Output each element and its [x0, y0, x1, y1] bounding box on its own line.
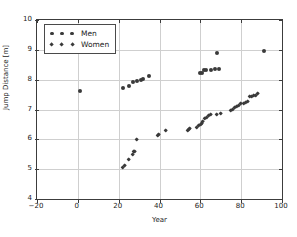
- circle-marker-icon: [60, 32, 64, 36]
- y-axis-tick: [35, 20, 39, 21]
- y-axis-tick: [279, 20, 283, 21]
- x-tick-label: 60: [195, 202, 204, 210]
- women-marker-sample: [49, 43, 75, 46]
- y-axis-tick: [35, 110, 39, 111]
- data-point-women: [133, 149, 138, 154]
- diamond-marker-icon: [49, 42, 54, 47]
- x-axis-tick: [200, 19, 201, 23]
- y-tick-label: 5: [10, 164, 32, 172]
- y-axis-tick: [35, 199, 39, 200]
- gridline-horizontal: [37, 110, 282, 111]
- x-axis-tick: [119, 19, 120, 23]
- y-axis-tick: [35, 139, 39, 140]
- y-tick-label: 6: [10, 134, 32, 142]
- data-point-men: [215, 51, 219, 55]
- circle-marker-icon: [50, 32, 54, 36]
- data-point-women: [218, 111, 223, 116]
- data-point-men: [209, 68, 213, 72]
- y-axis-tick: [35, 80, 39, 81]
- x-axis-tick: [78, 19, 79, 23]
- y-axis-tick: [279, 199, 283, 200]
- x-tick-label: 20: [113, 202, 122, 210]
- diamond-marker-icon: [70, 42, 75, 47]
- data-point-women: [163, 129, 168, 134]
- data-point-men: [147, 74, 151, 78]
- x-tick-label: 40: [154, 202, 163, 210]
- legend-label-women: Women: [81, 40, 109, 49]
- data-point-men: [78, 89, 82, 93]
- data-point-women: [126, 157, 131, 162]
- data-point-men: [262, 49, 266, 53]
- data-point-men: [217, 67, 221, 71]
- y-axis-tick: [35, 50, 39, 51]
- x-axis-tick: [241, 19, 242, 23]
- x-tick-label: 100: [274, 202, 287, 210]
- x-axis-tick: [160, 19, 161, 23]
- legend-label-men: Men: [81, 29, 97, 38]
- data-point-men: [141, 77, 145, 81]
- diamond-marker-icon: [60, 42, 65, 47]
- y-axis-tick: [279, 169, 283, 170]
- x-axis-title: Year: [36, 216, 283, 224]
- legend-item-men: Men: [49, 28, 109, 39]
- data-point-women: [135, 137, 140, 142]
- gridline-horizontal: [37, 169, 282, 170]
- y-tick-label: 10: [10, 15, 32, 23]
- chart-legend: Men Women: [44, 24, 116, 54]
- gridline-horizontal: [37, 80, 282, 81]
- y-tick-label: 9: [10, 45, 32, 53]
- x-tick-label: 0: [75, 202, 79, 210]
- y-tick-label: 4: [10, 194, 32, 202]
- y-axis-tick: [279, 80, 283, 81]
- y-axis-title: Jump Distance [m]: [2, 45, 10, 110]
- men-marker-sample: [49, 32, 75, 36]
- y-tick-label: 7: [10, 105, 32, 113]
- gridline-horizontal: [37, 139, 282, 140]
- data-point-men: [204, 68, 208, 72]
- data-point-men: [127, 84, 131, 88]
- y-axis-tick: [279, 139, 283, 140]
- y-axis-tick: [35, 169, 39, 170]
- circle-marker-icon: [70, 32, 74, 36]
- x-tick-label: −20: [29, 202, 44, 210]
- data-point-men: [121, 86, 125, 90]
- x-tick-label: 80: [236, 202, 245, 210]
- figure-canvas: −20020406080100 45678910 Year Jump Dista…: [0, 0, 297, 237]
- y-tick-label: 8: [10, 75, 32, 83]
- y-axis-tick: [279, 50, 283, 51]
- legend-item-women: Women: [49, 39, 109, 50]
- y-axis-tick: [279, 110, 283, 111]
